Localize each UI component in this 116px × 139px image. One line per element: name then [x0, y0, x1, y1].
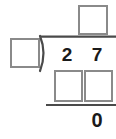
divisor-answer-box[interactable]: [10, 38, 40, 68]
remainder-digit: 0: [87, 110, 107, 130]
dividend-digit-ones: 7: [87, 45, 107, 64]
dividend-digit-tens: 2: [57, 45, 77, 64]
long-division-problem: 2 7 0: [0, 0, 116, 139]
partial-product-box-ones[interactable]: [84, 70, 113, 102]
partial-product-box-tens[interactable]: [54, 70, 83, 102]
subtraction-line: [46, 104, 116, 106]
